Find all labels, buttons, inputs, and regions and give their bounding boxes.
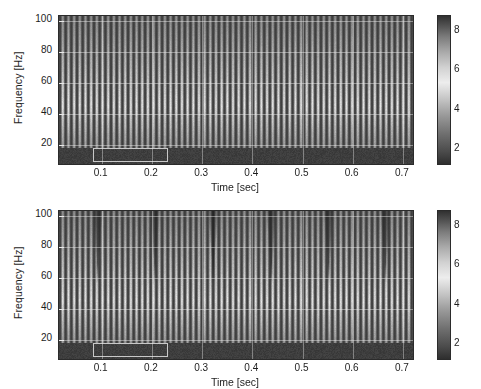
spectrogram-figure: Frequency [Hz] 100 80 60 40 20 0.1 0.2 0… <box>0 0 481 389</box>
gridline-vertical <box>353 211 354 359</box>
gridline-vertical <box>202 211 203 359</box>
gridline-vertical <box>303 16 304 164</box>
y-tick-label-bottom-80: 80 <box>18 239 52 250</box>
gridline-vertical <box>252 211 253 359</box>
gridline-vertical <box>152 16 153 164</box>
spectrogram-image-bottom <box>59 211 413 359</box>
gridline-horizontal <box>59 52 413 53</box>
gridline-vertical <box>252 16 253 164</box>
colorbar-tick-label-bottom-8: 8 <box>454 219 460 230</box>
colorbar-tick-label-top-4: 4 <box>454 103 460 114</box>
gridline-vertical <box>303 211 304 359</box>
x-axis-label-bottom: Time [sec] <box>58 376 412 388</box>
x-tick-label-bottom-0.3: 0.3 <box>183 362 219 373</box>
gridline-vertical <box>403 16 404 164</box>
spectrogram-image-top <box>59 16 413 164</box>
gridline-vertical <box>202 16 203 164</box>
y-tick-label-top-60: 60 <box>18 75 52 86</box>
gridline-horizontal <box>59 247 413 248</box>
x-tick-label-bottom-0.2: 0.2 <box>133 362 169 373</box>
x-tick-label-top-0.7: 0.7 <box>384 167 420 178</box>
y-tick-label-bottom-20: 20 <box>18 332 52 343</box>
gridline-horizontal <box>59 83 413 84</box>
x-tick-label-top-0.1: 0.1 <box>83 167 119 178</box>
gridline-horizontal <box>59 216 413 217</box>
x-tick-label-bottom-0.4: 0.4 <box>233 362 269 373</box>
x-tick-label-bottom-0.1: 0.1 <box>83 362 119 373</box>
x-tick-label-top-0.3: 0.3 <box>183 167 219 178</box>
panel-top: Frequency [Hz] 100 80 60 40 20 0.1 0.2 0… <box>0 0 481 194</box>
gridline-vertical <box>102 211 103 359</box>
y-tick-label-bottom-40: 40 <box>18 301 52 312</box>
colorbar-tick-label-top-2: 2 <box>454 142 460 153</box>
colorbar-tick-label-bottom-2: 2 <box>454 337 460 348</box>
colorbar-tick-label-bottom-6: 6 <box>454 258 460 269</box>
x-tick-label-bottom-0.6: 0.6 <box>334 362 370 373</box>
x-tick-label-top-0.4: 0.4 <box>233 167 269 178</box>
plot-area-bottom <box>58 210 414 360</box>
colorbar-top <box>437 15 451 165</box>
annotation-rectangle-top <box>93 148 168 162</box>
gridline-horizontal <box>59 309 413 310</box>
x-tick-label-top-0.2: 0.2 <box>133 167 169 178</box>
gridline-vertical <box>353 16 354 164</box>
colorbar-bottom <box>437 210 451 360</box>
x-tick-label-top-0.6: 0.6 <box>334 167 370 178</box>
gridline-vertical <box>152 211 153 359</box>
y-tick-label-top-20: 20 <box>18 137 52 148</box>
y-tick-label-bottom-60: 60 <box>18 270 52 281</box>
gridline-horizontal <box>59 21 413 22</box>
gridline-vertical <box>102 16 103 164</box>
plot-area-top <box>58 15 414 165</box>
gridline-horizontal <box>59 145 413 146</box>
x-tick-label-bottom-0.7: 0.7 <box>384 362 420 373</box>
gridline-horizontal <box>59 340 413 341</box>
x-axis-label-top: Time [sec] <box>58 181 412 193</box>
y-tick-label-top-100: 100 <box>18 13 52 24</box>
x-tick-label-top-0.5: 0.5 <box>284 167 320 178</box>
gridline-vertical <box>403 211 404 359</box>
gridline-horizontal <box>59 278 413 279</box>
y-tick-label-top-80: 80 <box>18 44 52 55</box>
y-tick-label-bottom-100: 100 <box>18 208 52 219</box>
annotation-rectangle-bottom <box>93 343 168 357</box>
gridline-horizontal <box>59 114 413 115</box>
panel-bottom: Frequency [Hz] 100 80 60 40 20 0.1 0.2 0… <box>0 195 481 389</box>
colorbar-tick-label-bottom-4: 4 <box>454 298 460 309</box>
colorbar-tick-label-top-8: 8 <box>454 24 460 35</box>
y-tick-label-top-40: 40 <box>18 106 52 117</box>
colorbar-tick-label-top-6: 6 <box>454 63 460 74</box>
x-tick-label-bottom-0.5: 0.5 <box>284 362 320 373</box>
